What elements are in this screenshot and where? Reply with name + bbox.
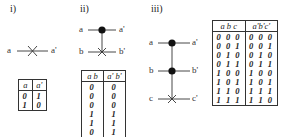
cnot-gate-circuit	[88, 26, 116, 56]
truth-table-toffoli: a b c a'b'c' 0 0 0 0 0 0 0 0 1 0 0 1 0 1…	[212, 20, 278, 106]
not-gate-circuit	[17, 46, 48, 56]
table-header-row: a b a' b'	[82, 71, 126, 82]
wire-output-label: b'	[119, 46, 125, 56]
truth-table-cnot: a b a' b' 0 0 0 0 0 1 0 1 1 0 1 1 1 1 1 …	[81, 70, 126, 137]
table-cell: 1 1	[103, 119, 125, 137]
control-dot-icon	[98, 26, 105, 33]
panel-title-i: i)	[10, 3, 16, 14]
table-header-row: a a'	[19, 80, 47, 91]
column-header: a'b'c'	[245, 21, 278, 32]
wire-input-label: c	[149, 93, 153, 103]
table-row: 0 1 0 1	[82, 101, 126, 119]
wire-output-label: c'	[192, 93, 198, 103]
table-cell: 0 0	[82, 82, 104, 102]
wire-output-label: a'	[119, 24, 125, 34]
panel-title-iii: iii)	[151, 3, 163, 14]
column-header: a' b'	[103, 71, 125, 82]
wire-output-label: a'	[192, 37, 198, 47]
table-cell: 0 1	[103, 101, 125, 119]
table-row: 0 0 0 0	[82, 82, 126, 102]
column-header: a	[19, 80, 33, 91]
table-cell: 0	[32, 101, 46, 111]
truth-table-not: a a' 0 1 1 0	[18, 79, 47, 111]
table-row: 1 1 1 1 1 0	[213, 96, 278, 106]
table-cell: 1	[19, 101, 33, 111]
wire-input-label: b	[149, 65, 154, 75]
column-header: a b	[82, 71, 104, 82]
table-cell: 0 1	[82, 101, 104, 119]
table-header-row: a b c a'b'c'	[213, 21, 278, 32]
toffoli-gate-circuit	[158, 39, 190, 103]
column-header: a b c	[213, 21, 246, 32]
control-dot-icon	[168, 67, 175, 74]
wire-input-label: a	[7, 45, 11, 55]
table-cell: 1 1 1	[213, 96, 246, 106]
table-cell: 0 0	[103, 82, 125, 102]
control-dot-icon	[168, 39, 175, 46]
table-cell: 1 1 0	[245, 96, 278, 106]
column-header: a'	[32, 80, 46, 91]
table-row: 1 0 1 1	[82, 119, 126, 137]
wire-input-label: b	[79, 46, 84, 56]
table-cell: 1 0	[82, 119, 104, 137]
wire-input-label: a	[149, 37, 153, 47]
wire-output-label: b'	[192, 65, 198, 75]
panel-title-ii: ii)	[80, 3, 89, 14]
wire-input-label: a	[79, 24, 83, 34]
table-row: 1 0	[19, 101, 47, 111]
wire-output-label: a'	[51, 45, 57, 55]
